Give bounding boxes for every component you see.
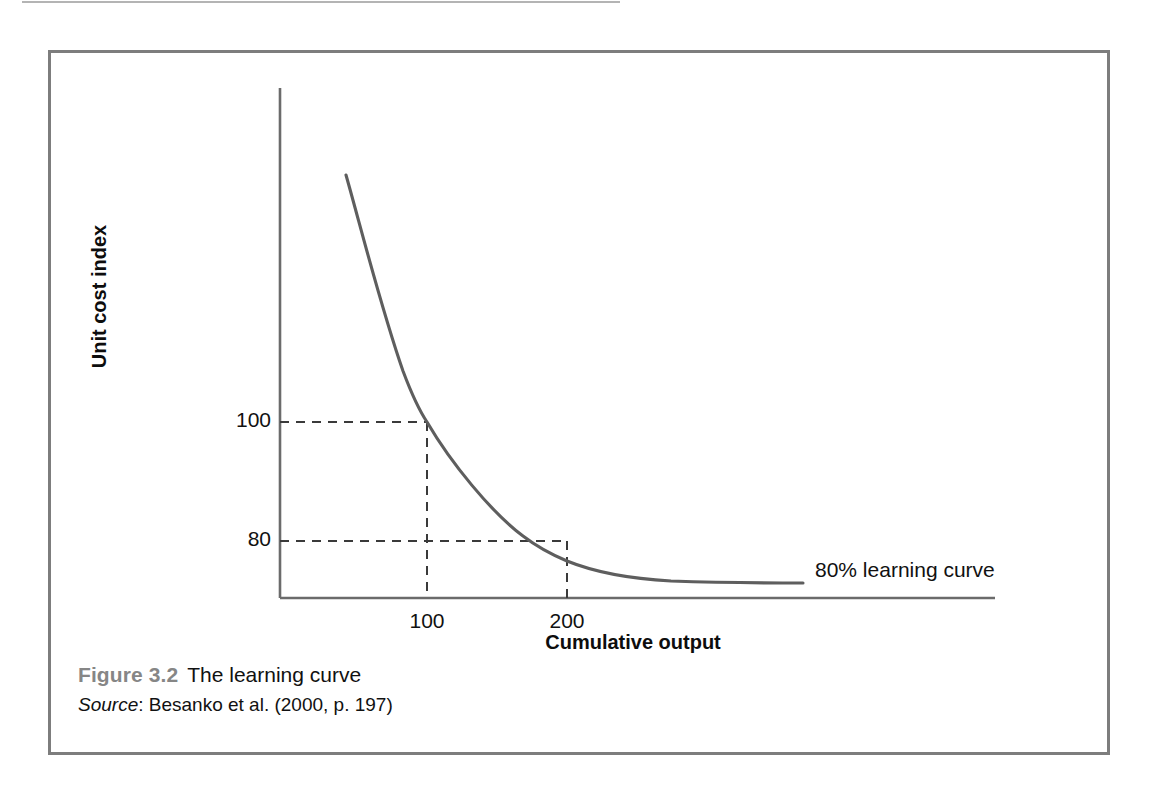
page-canvas: Unit cost index Cumulative output 100 80… bbox=[0, 0, 1156, 800]
source-citation: : Besanko et al. (2000, p. 197) bbox=[138, 694, 393, 715]
figure-frame: Unit cost index Cumulative output 100 80… bbox=[48, 50, 1110, 755]
figure-caption-block: Figure 3.2The learning curve Source: Bes… bbox=[78, 661, 1058, 716]
y-axis-tick-label-80: 80 bbox=[201, 527, 271, 551]
figure-caption: Figure 3.2The learning curve bbox=[78, 661, 1058, 689]
figure-title: The learning curve bbox=[187, 663, 361, 686]
y-axis-tick-label-100: 100 bbox=[201, 408, 271, 432]
learning-curve-line bbox=[346, 175, 803, 583]
learning-curve-chart bbox=[51, 53, 1113, 643]
top-page-rule bbox=[22, 1, 620, 3]
figure-source-line: Source: Besanko et al. (2000, p. 197) bbox=[78, 694, 1058, 716]
source-label: Source bbox=[78, 694, 138, 715]
chart-plot-area: Unit cost index Cumulative output 100 80… bbox=[51, 53, 1113, 643]
y-axis-title: Unit cost index bbox=[88, 197, 111, 397]
x-axis-title: Cumulative output bbox=[433, 631, 833, 654]
x-axis-tick-label-100: 100 bbox=[387, 609, 467, 633]
figure-number: Figure 3.2 bbox=[78, 663, 178, 686]
x-axis-tick-label-200: 200 bbox=[527, 609, 607, 633]
series-label-learning-curve: 80% learning curve bbox=[815, 558, 995, 582]
